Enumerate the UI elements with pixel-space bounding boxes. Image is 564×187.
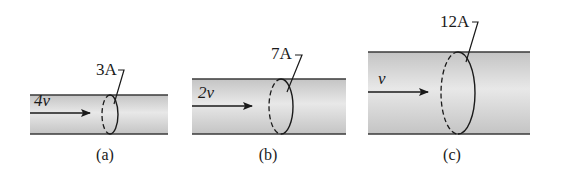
velocity-label: v xyxy=(378,69,386,88)
wire-pipe xyxy=(30,95,168,134)
current-label: 12A xyxy=(440,12,470,31)
current-label: 3A xyxy=(96,60,118,79)
panel-caption: (c) xyxy=(443,146,461,164)
panel-c: v 12A (c) xyxy=(368,12,530,164)
panel-caption: (b) xyxy=(259,146,278,164)
current-flow-diagram: 4v 3A (a) 2v 7A (b) v 12A (c) xyxy=(0,0,564,187)
velocity-label: 4v xyxy=(34,91,51,110)
current-label: 7A xyxy=(271,44,293,63)
panel-a: 4v 3A (a) xyxy=(30,60,168,164)
panel-b: 2v 7A (b) xyxy=(192,44,346,164)
velocity-label: 2v xyxy=(198,83,215,102)
wire-pipe xyxy=(368,52,530,134)
panel-caption: (a) xyxy=(96,146,114,164)
